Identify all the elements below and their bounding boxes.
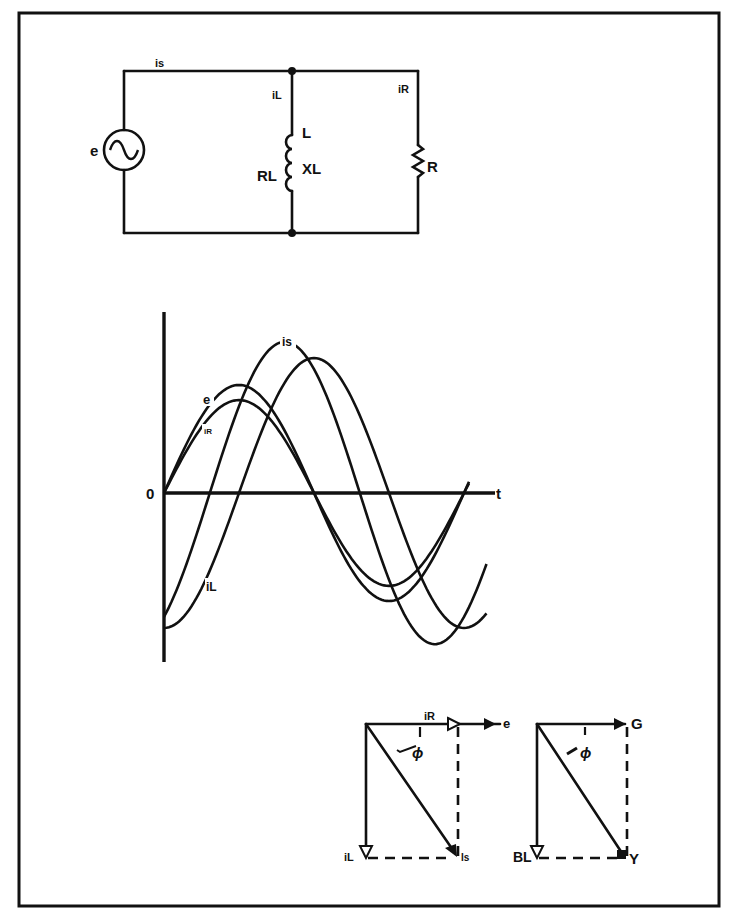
phi-label: ϕ <box>412 744 423 761</box>
admittance-phasor-diagram: G ϕ BL Y <box>513 715 643 867</box>
resistor-icon <box>413 145 423 177</box>
curve-label-is: is <box>282 335 292 349</box>
inductor-coil-icon <box>286 135 292 191</box>
iL-label: iL <box>344 851 354 863</box>
is-label: Is <box>461 852 470 863</box>
current-phasor-diagram: iR e ϕ iL Is <box>344 710 510 863</box>
resistor-current-label: iR <box>398 83 409 95</box>
iR-label: iR <box>424 710 435 722</box>
BL-arrowhead-icon <box>531 846 543 858</box>
iL-arrowhead-icon <box>360 846 372 858</box>
is-arrowhead-icon <box>445 844 457 857</box>
waveform-chart: 0 t e iR iL is <box>146 312 501 662</box>
G-label: G <box>631 715 643 732</box>
curve-label-iR: iR <box>204 427 212 436</box>
G-arrowhead-icon <box>614 718 626 730</box>
is-phasor <box>366 724 455 853</box>
source-label: e <box>90 142 98 159</box>
inductor-label: L <box>302 124 311 141</box>
curve-label-iL: iL <box>206 580 217 594</box>
e-arrowhead-icon <box>484 718 496 730</box>
figure-page: e is iL L RL XL iR R 0 t e iR iL <box>0 0 737 921</box>
angle-arrow-icon <box>567 748 577 754</box>
origin-label: 0 <box>146 485 154 502</box>
curve-label-e: e <box>203 392 210 407</box>
phi-label: ϕ <box>580 744 591 761</box>
inductor-current-label: iL <box>272 89 282 101</box>
circuit-diagram: e is iL L RL XL iR R <box>90 57 438 237</box>
e-label: e <box>503 716 510 731</box>
BL-label: BL <box>513 849 532 865</box>
resistor-label: R <box>427 158 438 175</box>
source-current-label: is <box>155 57 164 69</box>
inductive-reactance-label: XL <box>302 160 321 177</box>
time-axis-label: t <box>496 485 501 502</box>
inductor-resistance-label: RL <box>257 167 277 184</box>
Y-arrowhead-icon <box>617 850 626 859</box>
Y-label: Y <box>629 850 639 867</box>
ac-source-icon <box>104 130 144 170</box>
